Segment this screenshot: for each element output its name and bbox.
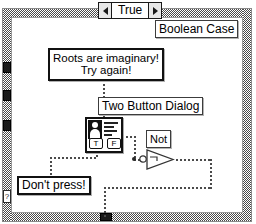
tunnel-left-2[interactable] [3,90,11,101]
not-gate-icon [139,148,179,174]
case-border-bottom [2,213,252,222]
structure-title-label: Boolean Case [155,20,238,38]
block-diagram-canvas: ? True Boolean Case Two Button Dialog No… [0,0,256,224]
person-icon [88,120,102,139]
tunnel-left-3[interactable] [3,120,11,131]
dialog-false-button-glyph: F [107,138,121,149]
wire-not-out-v2[interactable] [104,187,106,217]
case-border-right [243,8,252,222]
wire-not-out-h2[interactable] [104,187,212,189]
tunnel-left-1[interactable] [3,62,11,73]
case-selector-prev-button[interactable] [99,3,112,18]
chevron-right-icon [153,7,158,15]
dialog-true-button-glyph: T [89,138,103,149]
wire-dialog-to-constant-h[interactable] [50,157,98,159]
two-button-dialog-label: Two Button Dialog [98,97,203,115]
case-selector[interactable]: True [98,2,162,19]
case-selector-value[interactable]: True [112,3,148,18]
dialog-icon [88,120,120,139]
text-lines-icon [102,120,120,139]
chevron-left-icon [103,7,108,15]
dialog-buttons: T F [89,138,121,149]
not-function-label: Not [146,130,171,148]
case-selector-terminal[interactable]: ? [3,190,11,203]
wire-not-out-h1[interactable] [176,159,212,161]
string-constant[interactable]: Roots are imaginary! Try again! [48,48,164,81]
string-constant-line-1: Roots are imaginary! [52,52,160,64]
boolean-constant[interactable]: Don't press! [17,176,91,195]
wire-dialog-to-constant-v[interactable] [50,157,52,177]
wire-not-out-v1[interactable] [210,159,212,189]
string-constant-line-2: Try again! [52,64,160,76]
wire-junction-not-input [132,157,136,161]
not-function-node[interactable] [139,148,179,174]
two-button-dialog-node[interactable]: T F [85,117,123,153]
case-selector-next-button[interactable] [148,3,161,18]
tunnel-bottom-1[interactable] [100,213,112,221]
